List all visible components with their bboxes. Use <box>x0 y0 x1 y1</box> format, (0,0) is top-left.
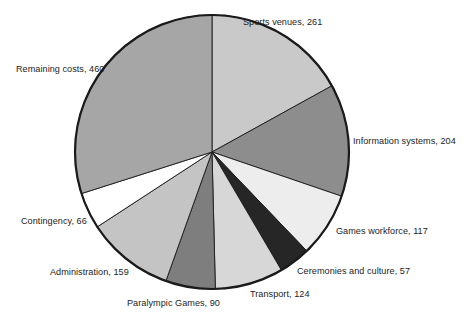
pie-label-sports-venues: Sports venues, 261 <box>243 17 322 28</box>
pie-slice-group <box>75 15 349 289</box>
pie-label-transport: Transport, 124 <box>250 289 310 300</box>
pie-label-paralympic-games: Paralympic Games, 90 <box>127 298 220 309</box>
pie-label-administration: Administration, 159 <box>50 267 129 278</box>
pie-chart-figure: Sports venues, 261Information systems, 2… <box>0 0 469 323</box>
pie-label-remaining-costs: Remaining costs, 460 <box>16 64 104 75</box>
pie-label-contingency: Contingency, 66 <box>21 216 87 227</box>
pie-label-ceremonies-and-culture: Ceremonies and culture, 57 <box>297 266 410 277</box>
pie-label-information-systems: Information systems, 204 <box>353 136 456 147</box>
pie-label-games-workforce: Games workforce, 117 <box>336 226 428 237</box>
